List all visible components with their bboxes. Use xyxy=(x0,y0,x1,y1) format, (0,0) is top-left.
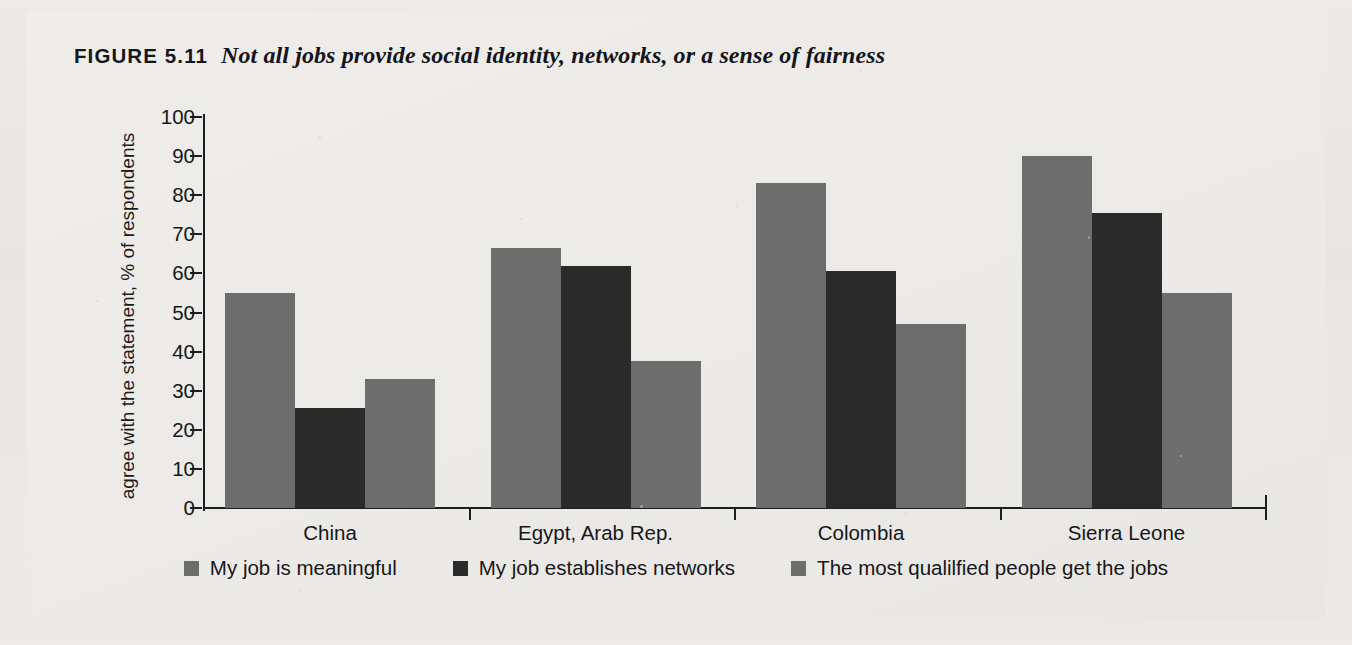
scan-speckle xyxy=(520,218,522,220)
figure-container: FIGURE 5.11 Not all jobs provide social … xyxy=(0,0,1352,645)
x-axis-category-label: Sierra Leone xyxy=(1068,521,1185,545)
bar xyxy=(631,361,701,508)
plot-area: 0102030405060708090100 xyxy=(203,117,1265,508)
scan-speckle xyxy=(640,505,643,508)
y-axis-tick-label: 0 xyxy=(125,498,195,519)
scan-speckle xyxy=(905,512,907,514)
y-axis-tick-label: 100 xyxy=(125,107,195,128)
scan-speckle xyxy=(735,205,738,207)
legend-item[interactable]: My job is meaningful xyxy=(184,556,397,580)
bar xyxy=(225,293,295,508)
scan-speckle xyxy=(300,590,302,592)
y-axis-tick-label: 90 xyxy=(125,146,195,167)
x-axis-tick xyxy=(469,507,471,520)
figure-number-label: FIGURE 5.11 xyxy=(74,44,208,68)
scan-speckle xyxy=(860,70,862,72)
bar xyxy=(561,266,631,508)
legend-item-label: My job establishes networks xyxy=(479,556,735,580)
figure-title-row: FIGURE 5.11 Not all jobs provide social … xyxy=(74,42,885,69)
scan-speckle xyxy=(96,300,98,302)
bar xyxy=(826,271,896,508)
x-axis-category-label: China xyxy=(303,521,357,545)
x-axis-tick xyxy=(1000,507,1002,520)
bar xyxy=(365,379,435,508)
legend-item-label: My job is meaningful xyxy=(210,556,397,580)
bar xyxy=(1162,293,1232,508)
x-axis-category-label: Colombia xyxy=(818,521,905,545)
legend-item-label: The most qualilfied people get the jobs xyxy=(817,556,1168,580)
y-axis-tick-label: 60 xyxy=(125,263,195,284)
y-axis-tick-label: 80 xyxy=(125,185,195,206)
legend-swatch-qualified xyxy=(791,561,806,576)
legend-item[interactable]: My job establishes networks xyxy=(453,556,735,580)
bar xyxy=(1022,156,1092,508)
bar xyxy=(756,183,826,508)
scan-speckle xyxy=(1180,455,1182,457)
legend-item[interactable]: The most qualilfied people get the jobs xyxy=(791,556,1168,580)
y-axis-tick-label: 40 xyxy=(125,341,195,362)
bar xyxy=(896,324,966,508)
x-axis-tick xyxy=(1265,507,1267,520)
y-axis-tick-label: 20 xyxy=(125,420,195,441)
bar xyxy=(295,408,365,508)
chart-legend: My job is meaningfulMy job establishes n… xyxy=(0,556,1352,580)
legend-swatch-meaningful xyxy=(184,561,199,576)
bar xyxy=(1092,213,1162,508)
x-axis-category-label: Egypt, Arab Rep. xyxy=(518,521,673,545)
legend-swatch-networks xyxy=(453,561,468,576)
y-axis-tick-label: 50 xyxy=(125,302,195,323)
y-axis-tick-label: 30 xyxy=(125,380,195,401)
y-axis-tick-label: 70 xyxy=(125,224,195,245)
x-axis-tick xyxy=(734,507,736,520)
bar xyxy=(491,248,561,508)
figure-title: Not all jobs provide social identity, ne… xyxy=(221,42,885,69)
y-axis-tick-label: 10 xyxy=(125,459,195,480)
scan-speckle xyxy=(318,136,321,139)
scan-speckle xyxy=(1088,236,1090,239)
